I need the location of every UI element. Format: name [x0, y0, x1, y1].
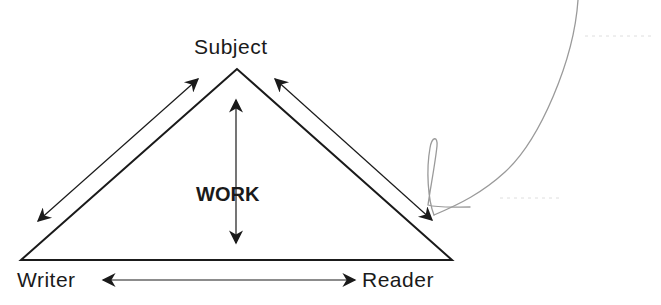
label-reader: Reader	[362, 268, 434, 291]
label-work: WORK	[196, 183, 260, 205]
pencil-annotation-arrow	[428, 0, 578, 215]
label-writer: Writer	[17, 268, 76, 291]
arrow-subject-reader	[275, 79, 432, 220]
arrow-writer-subject	[38, 79, 198, 221]
rhetorical-triangle-diagram: Subject WORK Writer Reader	[0, 0, 661, 305]
label-subject: Subject	[194, 35, 268, 58]
faint-scan-marks	[500, 36, 655, 198]
